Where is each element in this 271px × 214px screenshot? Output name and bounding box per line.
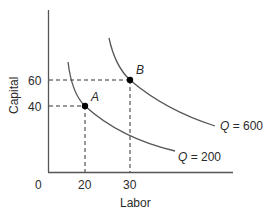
- q200-label: Q = 200: [178, 150, 221, 164]
- y-tick-60: 60: [28, 74, 42, 88]
- y-tick-40: 40: [28, 100, 42, 114]
- q600-label-q: Q: [220, 119, 229, 133]
- q600-label: Q = 600: [220, 119, 263, 133]
- point-a-marker: [82, 103, 88, 109]
- x-axis-title: Labor: [120, 196, 151, 210]
- q600-label-value: = 600: [229, 119, 263, 133]
- point-b-marker: [127, 77, 133, 83]
- point-b-label: B: [136, 63, 144, 77]
- point-a-label: A: [90, 90, 99, 104]
- isoquant-chart: A B Q = 200 Q = 600 60 40 0 20 30 Labor …: [0, 0, 271, 214]
- x-tick-30: 30: [123, 178, 137, 192]
- q200-label-q: Q: [178, 150, 187, 164]
- x-tick-origin: 0: [35, 178, 42, 192]
- isoquant-q600: [109, 38, 215, 126]
- q200-label-value: = 200: [187, 150, 221, 164]
- y-axis-title: Capital: [7, 77, 21, 114]
- x-tick-20: 20: [78, 178, 92, 192]
